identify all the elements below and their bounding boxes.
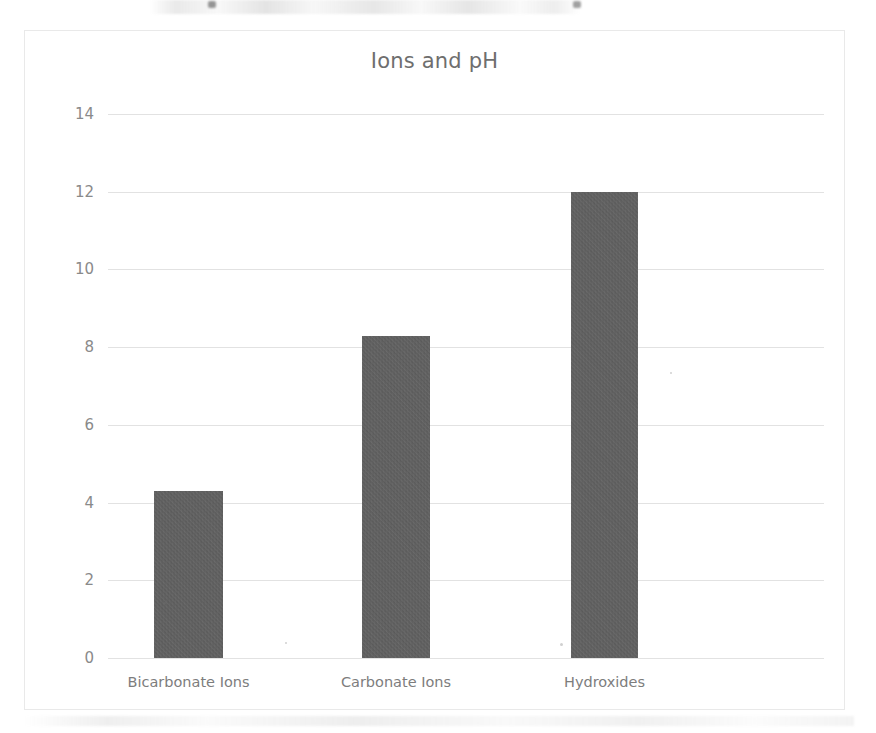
category-label-carbonate-ions: Carbonate Ions bbox=[341, 674, 451, 690]
y-tick-label-12: 12 bbox=[75, 183, 94, 201]
chart-title: Ions and pH bbox=[25, 49, 844, 73]
gridline-8: 8 bbox=[108, 347, 824, 348]
y-tick-label-4: 4 bbox=[84, 494, 94, 512]
scan-artifact-bottom bbox=[24, 716, 854, 726]
gridline-10: 10 bbox=[108, 269, 824, 270]
y-tick-label-14: 14 bbox=[75, 105, 94, 123]
scan-speckle bbox=[670, 372, 672, 374]
y-tick-label-0: 0 bbox=[84, 649, 94, 667]
chart-container: Ions and pH 14 12 10 8 6 4 2 0 Bicarbona… bbox=[24, 30, 845, 710]
bar-carbonate-ions[interactable]: Carbonate Ions bbox=[362, 336, 430, 659]
scan-artifact-top bbox=[150, 0, 580, 14]
gridline-12: 12 bbox=[108, 192, 824, 193]
y-tick-label-6: 6 bbox=[84, 416, 94, 434]
scan-speckle bbox=[560, 643, 563, 646]
category-label-bicarbonate-ions: Bicarbonate Ions bbox=[127, 674, 249, 690]
gridline-14: 14 bbox=[108, 114, 824, 115]
y-tick-label-10: 10 bbox=[75, 260, 94, 278]
category-label-hydroxides: Hydroxides bbox=[564, 674, 645, 690]
plot-area: 14 12 10 8 6 4 2 0 Bicarbonate Ions Carb… bbox=[108, 114, 824, 658]
bar-bicarbonate-ions[interactable]: Bicarbonate Ions bbox=[154, 491, 223, 658]
y-tick-label-2: 2 bbox=[84, 571, 94, 589]
bar-hydroxides[interactable]: Hydroxides bbox=[571, 192, 638, 658]
gridline-0-baseline: 0 bbox=[108, 658, 824, 659]
scan-speckle bbox=[164, 602, 166, 604]
y-tick-label-8: 8 bbox=[84, 338, 94, 356]
gridline-6: 6 bbox=[108, 425, 824, 426]
scan-speckle bbox=[285, 642, 287, 644]
